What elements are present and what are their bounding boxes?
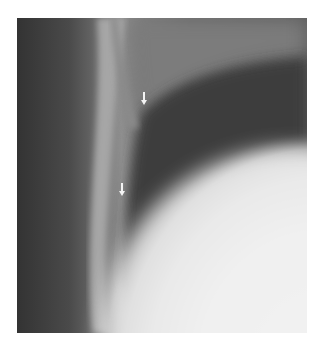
arrow-down-icon xyxy=(142,92,146,105)
radiograph-image xyxy=(17,18,307,333)
arrow-down-icon xyxy=(120,183,124,196)
radiograph-render xyxy=(17,18,307,333)
